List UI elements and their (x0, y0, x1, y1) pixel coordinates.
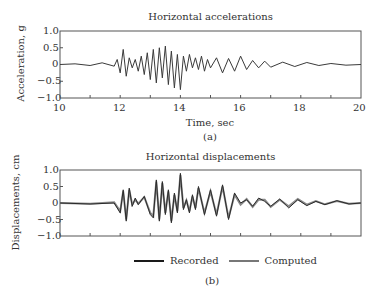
displacement-recorded-line (60, 173, 361, 223)
legend-item-computed: Computed (229, 255, 317, 266)
panel-a-ticks (60, 48, 331, 98)
panel-b-ticks (60, 187, 331, 237)
chart-canvas (0, 0, 385, 297)
legend-item-recorded: Recorded (134, 255, 219, 266)
legend: Recorded Computed (134, 255, 327, 266)
legend-label-recorded: Recorded (170, 255, 219, 266)
computed-swatch (229, 260, 259, 262)
displacement-computed-line (60, 175, 361, 221)
legend-label-computed: Computed (265, 255, 317, 266)
panel-b-caption: (b) (192, 275, 232, 286)
recorded-swatch (134, 260, 164, 262)
acceleration-recorded-line (60, 46, 361, 90)
